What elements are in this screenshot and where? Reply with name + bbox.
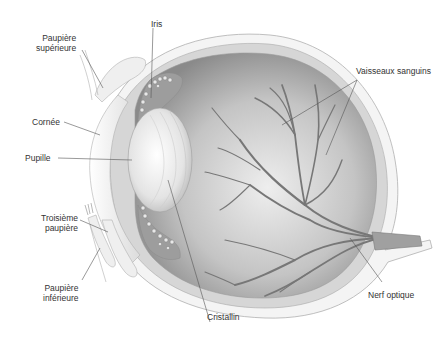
- label-iris: Iris: [151, 19, 162, 29]
- label-lens: Cristallin: [207, 312, 240, 322]
- label-line: Paupière: [43, 283, 78, 293]
- label-line: paupière: [41, 223, 78, 233]
- label-optic-nerve: Nerf optique: [368, 290, 414, 300]
- label-line: Troisième: [41, 213, 78, 223]
- label-cornea: Cornée: [32, 117, 60, 127]
- label-upper-eyelid: Paupière supérieure: [36, 33, 76, 53]
- label-pupil: Pupille: [25, 153, 51, 163]
- label-blood-vessels: Vaisseaux sanguins: [356, 66, 431, 76]
- label-third-eyelid: Troisième paupière: [41, 213, 78, 233]
- lens: [128, 108, 192, 212]
- label-lower-eyelid: Paupière inférieure: [43, 283, 78, 303]
- label-line: inférieure: [43, 293, 78, 303]
- label-line: Paupière: [36, 33, 76, 43]
- label-line: supérieure: [36, 43, 76, 53]
